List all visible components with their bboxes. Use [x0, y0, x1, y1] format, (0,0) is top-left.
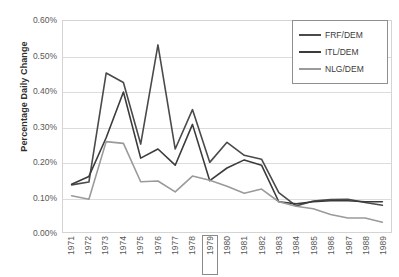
x-axis-tick-label-text: 1972	[81, 236, 95, 255]
x-axis-tick-label-text: 1989	[376, 236, 390, 255]
x-axis-tick-label-text: 1977	[168, 236, 182, 255]
x-axis-tick-label: 1980	[220, 236, 234, 276]
x-axis-tick-label: 1977	[168, 236, 182, 276]
legend-label: NLG/DEM	[325, 64, 364, 74]
legend-label: FRF/DEM	[325, 30, 363, 40]
chart-legend: FRF/DEMITL/DEMNLG/DEM	[292, 20, 388, 84]
x-axis-tick-label: 1986	[324, 236, 338, 276]
y-axis-tick-label: 0.20%	[33, 157, 57, 167]
x-axis-tick-label-text: 1976	[151, 236, 165, 255]
x-axis-tick-label-text: 1971	[64, 236, 78, 255]
x-axis-tick-label-text: 1982	[255, 236, 269, 255]
y-axis-tick-label: 0.00%	[33, 228, 57, 238]
x-axis-tick-label-highlighted: 1979	[202, 235, 218, 275]
legend-swatch	[299, 34, 321, 36]
y-axis-tick-label: 0.40%	[33, 86, 57, 96]
x-axis-tick-label: 1973	[98, 236, 112, 276]
x-axis-tick-label: 1978	[185, 236, 199, 276]
x-axis-tick-label-text: 1975	[133, 236, 147, 255]
y-axis-tick-label: 0.10%	[33, 193, 57, 203]
x-axis-tick-label-text: 1986	[324, 236, 338, 255]
legend-swatch	[299, 68, 321, 70]
x-axis-tick-label: 1988	[359, 236, 373, 276]
x-axis-tick-label: 1972	[81, 236, 95, 276]
x-axis-tick-label-text: 1981	[237, 236, 251, 255]
legend-swatch	[299, 51, 321, 53]
x-axis-tick-label-text: 1984	[289, 236, 303, 255]
x-axis-tick-label-text: 1973	[98, 236, 112, 255]
x-axis-tick-label: 1974	[116, 236, 130, 276]
x-axis-tick-label-text: 1979	[203, 236, 217, 255]
legend-label: ITL/DEM	[325, 47, 359, 57]
x-axis-tick-label: 1983	[272, 236, 286, 276]
y-axis-tick-labels: 0.60%0.50%0.40%0.30%0.20%0.10%0.00%	[22, 13, 60, 235]
x-axis-tick-label: 1989	[376, 236, 390, 276]
x-axis-tick-labels: 1971197219731974197519761977197819791980…	[62, 234, 392, 277]
x-axis-tick-label-text: 1987	[342, 236, 356, 255]
y-axis-tick-label: 0.60%	[33, 15, 57, 25]
x-axis-tick-label: 1987	[342, 236, 356, 276]
legend-item: ITL/DEM	[299, 43, 381, 60]
x-axis-tick-label: 1985	[307, 236, 321, 276]
line-chart: Percentage Daily Change 0.60%0.50%0.40%0…	[0, 0, 399, 277]
x-axis-tick-label-text: 1988	[359, 236, 373, 255]
x-axis-tick-label-text: 1980	[220, 236, 234, 255]
x-axis-tick-label-text: 1985	[307, 236, 321, 255]
x-axis-tick-label: 1971	[64, 236, 78, 276]
x-axis-tick-label: 1976	[151, 236, 165, 276]
x-axis-tick-label-text: 1974	[116, 236, 130, 255]
y-axis-tick-label: 0.50%	[33, 51, 57, 61]
x-axis-tick-label-text: 1983	[272, 236, 286, 255]
legend-item: FRF/DEM	[299, 26, 381, 43]
x-axis-tick-label: 1975	[133, 236, 147, 276]
x-axis-tick-label: 1984	[289, 236, 303, 276]
x-axis-tick-label-text: 1978	[185, 236, 199, 255]
series-line	[72, 142, 383, 223]
x-axis-tick-label: 1982	[255, 236, 269, 276]
x-axis-tick-label: 1981	[237, 236, 251, 276]
legend-item: NLG/DEM	[299, 60, 381, 77]
y-axis-tick-label: 0.30%	[33, 122, 57, 132]
